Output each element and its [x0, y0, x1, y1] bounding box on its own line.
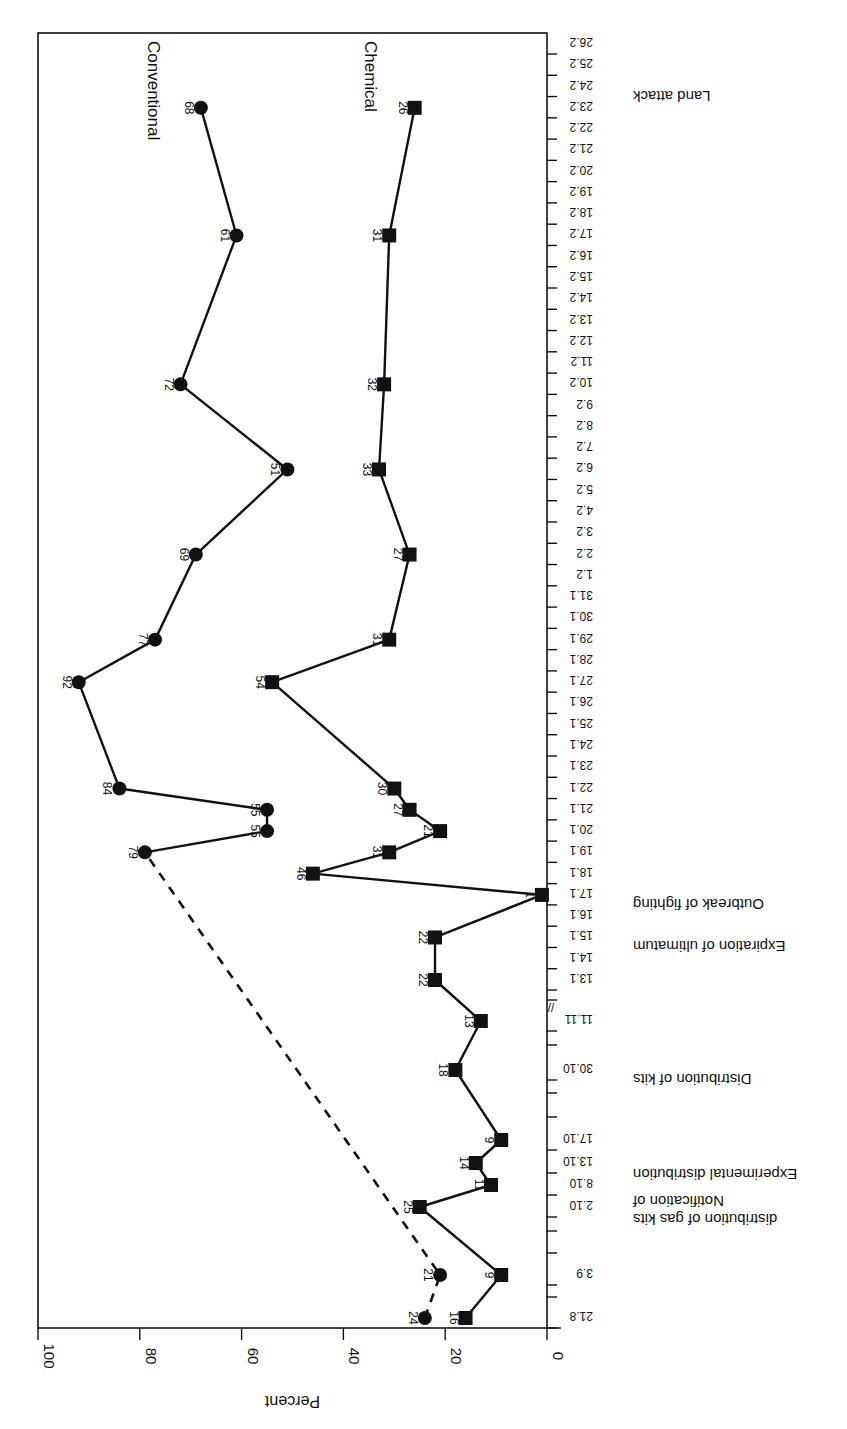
date-tick-label: 22.1 [569, 780, 593, 794]
data-value-label: 30 [375, 782, 389, 796]
data-value-label: 55 [248, 824, 262, 838]
date-tick-label: 22.2 [569, 120, 593, 134]
data-value-label: 22 [416, 931, 430, 945]
date-tick-label: 21.1 [569, 801, 593, 815]
data-value-label: 55 [248, 803, 262, 817]
date-tick-label: 14.1 [569, 950, 593, 964]
percent-tick-label: 40 [346, 1348, 363, 1365]
date-tick-label: 2.2 [576, 546, 593, 560]
data-value-label: 72 [162, 378, 176, 392]
date-tick-label: 6.2 [576, 460, 593, 474]
data-value-label: 11 [472, 1179, 486, 1192]
data-value-label: 84 [100, 782, 114, 796]
date-tick-label: 20.2 [569, 163, 593, 177]
data-value-label: 22 [416, 973, 430, 987]
percent-tick-label: 20 [448, 1348, 465, 1365]
date-tick-label: 21.8 [569, 1309, 593, 1323]
date-tick-label: 17.10 [563, 1131, 593, 1145]
data-value-label: 18 [436, 1063, 450, 1077]
data-value-label: 92 [60, 676, 74, 690]
percent-tick-label: 0 [550, 1352, 567, 1360]
data-value-label: 31 [370, 229, 384, 243]
date-tick-label: 24.2 [569, 78, 593, 92]
date-tick-label: 14.2 [569, 290, 593, 304]
date-axis: 21.83.92.108.1013.1017.1030.1011.1113.11… [547, 35, 593, 1328]
date-tick-label: 29.1 [569, 631, 593, 645]
data-value-label: 79 [126, 846, 140, 860]
date-tick-label: 10.2 [569, 375, 593, 389]
data-value-label: 1 [523, 892, 537, 899]
date-tick-label: 8.2 [576, 418, 593, 432]
event-label: Outbreak of fighting [633, 896, 764, 913]
date-tick-label: 19.2 [569, 184, 593, 198]
date-tick-label: 17.1 [569, 886, 593, 900]
percent-axis-title: Percent [264, 1393, 320, 1410]
line-chart: 020406080100Percent 21.83.92.108.1013.10… [0, 0, 847, 1429]
date-tick-label: 26.1 [569, 694, 593, 708]
data-value-label: 32 [365, 378, 379, 392]
date-tick-label: 23.1 [569, 758, 593, 772]
date-tick-label: 19.1 [569, 843, 593, 857]
data-value-label: 9 [482, 1272, 496, 1279]
date-tick-label: 28.1 [569, 652, 593, 666]
series-title: Chemical [361, 41, 380, 112]
data-value-label: 77 [136, 633, 150, 647]
date-tick-label: 3.2 [576, 524, 593, 538]
date-tick-label: 1.2 [576, 567, 593, 581]
date-tick-label: 15.2 [569, 269, 593, 283]
percent-tick-label: 60 [245, 1348, 262, 1365]
percent-tick-label: 80 [143, 1348, 160, 1365]
date-tick-label: 30.10 [563, 1061, 593, 1075]
data-value-label: 27 [391, 548, 405, 562]
data-value-label: 16 [447, 1311, 461, 1325]
data-value-label: 21 [421, 1268, 435, 1282]
date-tick-label: 7.2 [576, 439, 593, 453]
data-value-label: 24 [406, 1311, 420, 1325]
event-label: Land attack [633, 88, 711, 105]
date-tick-label: 13.10 [563, 1154, 593, 1168]
date-tick-label: 20.1 [569, 822, 593, 836]
plot-frame [38, 33, 547, 1328]
data-value-label: 9 [482, 1137, 496, 1144]
data-value-label: 51 [268, 463, 282, 477]
percent-axis: 020406080100Percent [38, 1328, 567, 1410]
date-tick-label: 13.2 [569, 312, 593, 326]
date-tick-label: 27.1 [569, 673, 593, 687]
date-tick-label: 17.2 [569, 226, 593, 240]
event-label: Notification of [632, 1193, 724, 1210]
data-value-label: 31 [370, 846, 384, 860]
date-tick-label: 13.1 [569, 971, 593, 985]
data-value-label: 27 [391, 803, 405, 817]
date-tick-label: 5.2 [576, 482, 593, 496]
date-tick-label: 3.9 [576, 1266, 593, 1280]
data-value-label: 69 [177, 548, 191, 562]
date-tick-label: 16.1 [569, 907, 593, 921]
plot-border [38, 33, 547, 1328]
date-tick-label: 11.11 [564, 1012, 593, 1026]
event-label: Experimental distribution [633, 1166, 797, 1183]
date-tick-label: 26.2 [569, 35, 593, 49]
date-tick-label: 31.1 [569, 588, 593, 602]
data-value-label: 25 [401, 1200, 415, 1214]
data-value-label: 14 [457, 1156, 471, 1170]
event-annotations: Notification ofdistribution of gas kitsE… [632, 88, 797, 1228]
percent-tick-label: 100 [41, 1343, 58, 1368]
date-tick-label: 30.1 [569, 609, 593, 623]
date-tick-label: 9.2 [576, 397, 593, 411]
date-tick-label: 11.2 [570, 354, 593, 368]
date-tick-label: 18.2 [569, 205, 593, 219]
data-value-label: 21 [421, 824, 435, 838]
date-tick-label: 15.1 [569, 928, 593, 942]
series-chemical: 1692511149181322221463121273054312733323… [253, 41, 549, 1325]
series-title: Conventional [144, 41, 163, 140]
data-value-label: 46 [294, 867, 308, 881]
date-tick-label: 25.2 [569, 56, 593, 70]
date-tick-label: 21.2 [569, 141, 593, 155]
data-value-label: 61 [218, 229, 232, 243]
date-tick-label: 24.1 [569, 737, 593, 751]
series-group: 24217955558492776951726168Conventional16… [60, 41, 549, 1325]
date-tick-label: 25.1 [569, 716, 593, 730]
data-value-label: 26 [396, 101, 410, 115]
axis-break-marker: // [547, 1000, 554, 1014]
date-tick-label: 12.2 [569, 333, 593, 347]
